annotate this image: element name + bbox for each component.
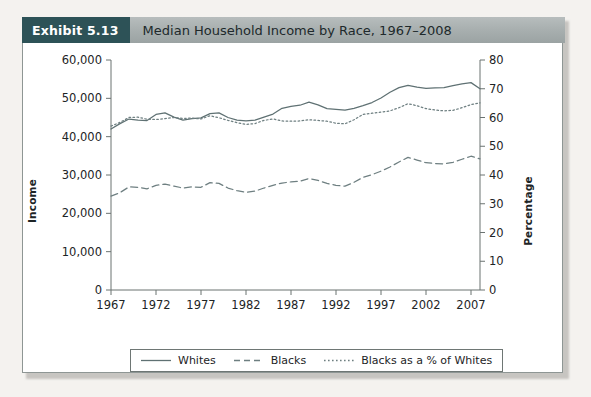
y-axis-tick-label: 30,000 xyxy=(62,168,102,182)
x-axis-tick-label: 1982 xyxy=(231,298,260,312)
legend-item[interactable]: Blacks as a % of Whites xyxy=(324,354,492,367)
y-axis-tick-label: 0 xyxy=(95,283,102,297)
chart-panel: 010,00020,00030,00040,00050,00060,000010… xyxy=(22,43,563,373)
exhibit-title: Median Household Income by Race, 1967–20… xyxy=(130,17,452,43)
series-line-blacks xyxy=(111,156,480,196)
legend-item[interactable]: Whites xyxy=(141,354,216,367)
y2-axis-title-percentage: Percentage xyxy=(522,176,534,246)
legend-swatch-solid xyxy=(141,356,171,365)
exhibit-card: Exhibit 5.13 Median Household Income by … xyxy=(22,17,565,375)
legend-label: Whites xyxy=(178,354,216,367)
x-axis-tick-label: 1987 xyxy=(276,298,305,312)
exhibit-header: Exhibit 5.13 Median Household Income by … xyxy=(22,17,565,43)
x-axis-tick-label: 2002 xyxy=(411,298,440,312)
legend-label: Blacks as a % of Whites xyxy=(361,354,492,367)
y2-axis-tick-label: 10 xyxy=(489,254,504,268)
y2-axis-tick-label: 70 xyxy=(489,82,504,96)
y-axis-tick-label: 50,000 xyxy=(62,91,102,105)
x-axis-tick-label: 1972 xyxy=(141,298,170,312)
x-axis-tick-label: 2007 xyxy=(456,298,485,312)
y-axis-tick-label: 60,000 xyxy=(62,53,102,67)
y-axis-tick-label: 20,000 xyxy=(62,206,102,220)
y-axis-tick-label: 40,000 xyxy=(62,130,102,144)
x-axis-tick-label: 1992 xyxy=(321,298,350,312)
chart-plot-area: 010,00020,00030,00040,00050,00060,000010… xyxy=(23,43,564,330)
legend-label: Blacks xyxy=(271,354,307,367)
legend-swatch-dotted xyxy=(324,356,354,365)
legend-item[interactable]: Blacks xyxy=(234,354,307,367)
y-axis-title-income: Income xyxy=(26,179,38,223)
screenshot-root: Exhibit 5.13 Median Household Income by … xyxy=(0,0,591,397)
x-axis-tick-label: 1997 xyxy=(366,298,395,312)
y2-axis-tick-label: 40 xyxy=(489,168,504,182)
legend-swatch-dashed xyxy=(234,356,264,365)
chart-legend: WhitesBlacksBlacks as a % of Whites xyxy=(130,349,503,372)
exhibit-number-badge: Exhibit 5.13 xyxy=(22,17,130,43)
y2-axis-tick-label: 80 xyxy=(489,53,504,67)
y-axis-tick-label: 10,000 xyxy=(62,245,102,259)
y2-axis-tick-label: 30 xyxy=(489,197,504,211)
x-axis-tick-label: 1977 xyxy=(186,298,215,312)
x-axis-tick-label: 1967 xyxy=(96,298,125,312)
line-chart-svg: 010,00020,00030,00040,00050,00060,000010… xyxy=(23,43,564,330)
y2-axis-tick-label: 60 xyxy=(489,111,504,125)
y2-axis-tick-label: 0 xyxy=(489,283,496,297)
series-line-whites xyxy=(111,83,480,129)
y2-axis-tick-label: 50 xyxy=(489,139,504,153)
y2-axis-tick-label: 20 xyxy=(489,226,504,240)
